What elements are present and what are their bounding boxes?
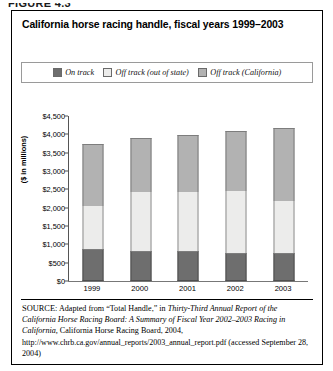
- bars-container: [69, 95, 308, 281]
- y-axis-tick-mark: [64, 244, 68, 245]
- bar-segment[interactable]: [82, 144, 103, 206]
- bar-group[interactable]: [117, 95, 165, 281]
- stacked-bar-2002[interactable]: [226, 131, 247, 281]
- y-axis-tick-mark: [64, 134, 68, 135]
- y-axis-tick-mark: [64, 189, 68, 190]
- legend-label: Off track (California): [210, 68, 281, 77]
- figure-frame: California horse racing handle, fiscal y…: [11, 10, 323, 365]
- legend-label: Off track (out of state): [116, 68, 189, 77]
- bar-segment[interactable]: [82, 206, 103, 249]
- chart-axes: $4,500$4,000$3,500$3,000$2,500$2,000$1,5…: [68, 95, 310, 291]
- legend-item-off-track-out-of-state: Off track (out of state): [103, 68, 189, 77]
- y-axis-tick-mark: [64, 207, 68, 208]
- chart-legend: On track Off track (out of state) Off tr…: [21, 62, 313, 83]
- source-text-2: California Horse Racing Board, 2004,: [58, 326, 183, 335]
- y-axis-title: ($ in millions): [18, 99, 29, 219]
- x-axis-tick-label: 2001: [164, 284, 212, 293]
- y-axis-title-text: ($ in millions): [19, 135, 28, 183]
- stacked-bar-2001[interactable]: [178, 135, 199, 281]
- figure-label: FIGURE 4.3: [8, 0, 71, 9]
- y-axis-tick-mark: [64, 226, 68, 227]
- chart-plot-area: $4,500$4,000$3,500$3,000$2,500$2,000$1,5…: [34, 95, 310, 291]
- bar-segment[interactable]: [274, 201, 295, 253]
- legend-item-on-track: On track: [53, 68, 94, 77]
- bar-group[interactable]: [165, 95, 213, 281]
- stacked-bar-2000[interactable]: [130, 138, 151, 281]
- x-axis-line: [68, 281, 308, 282]
- y-axis-tick-mark: [64, 281, 68, 282]
- x-axis-tick-label: 2000: [116, 284, 164, 293]
- bar-group[interactable]: [260, 95, 308, 281]
- bar-segment[interactable]: [178, 135, 199, 192]
- legend-label: On track: [65, 68, 94, 77]
- bar-segment[interactable]: [130, 251, 151, 281]
- bar-segment[interactable]: [178, 251, 199, 281]
- source-url: http://www.chrb.ca.gov/annual_reports/20…: [22, 338, 226, 347]
- y-axis-tick-mark: [64, 152, 68, 153]
- bar-group[interactable]: [69, 95, 117, 281]
- bar-segment[interactable]: [130, 192, 151, 251]
- y-axis-tick-mark: [64, 116, 68, 117]
- source-divider: [21, 299, 313, 300]
- bar-segment[interactable]: [226, 131, 247, 191]
- bar-segment[interactable]: [274, 128, 295, 201]
- y-axis-tick-mark: [64, 171, 68, 172]
- bar-segment[interactable]: [226, 253, 247, 281]
- legend-swatch-icon: [53, 68, 62, 77]
- bar-segment[interactable]: [226, 191, 247, 253]
- legend-swatch-icon: [103, 68, 112, 77]
- source-text-1: Adapted from “Total Handle,” in: [57, 304, 167, 313]
- x-axis-tick-label: 1999: [68, 284, 116, 293]
- chart-title: California horse racing handle, fiscal y…: [22, 19, 312, 30]
- legend-swatch-icon: [198, 68, 207, 77]
- bar-segment[interactable]: [130, 138, 151, 192]
- stacked-bar-2003[interactable]: [274, 128, 295, 281]
- y-axis-tick-mark: [64, 262, 68, 263]
- stacked-bar-1999[interactable]: [82, 144, 103, 281]
- source-note: SOURCE: Adapted from “Total Handle,” in …: [22, 303, 310, 359]
- bar-segment[interactable]: [82, 249, 103, 281]
- source-prefix: SOURCE:: [22, 304, 57, 313]
- bar-segment[interactable]: [274, 253, 295, 281]
- bar-segment[interactable]: [178, 192, 199, 251]
- x-axis-tick-label: 2002: [211, 284, 259, 293]
- legend-item-off-track-california: Off track (California): [198, 68, 281, 77]
- x-axis-tick-label: 2003: [259, 284, 307, 293]
- bar-group[interactable]: [212, 95, 260, 281]
